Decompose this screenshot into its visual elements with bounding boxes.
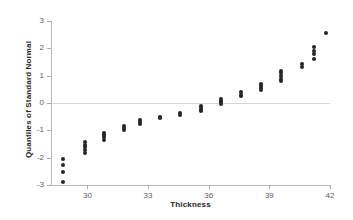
- zero-reference-line: [51, 103, 330, 104]
- x-axis-title: Thickness: [51, 200, 330, 209]
- y-axis-line: [51, 21, 52, 185]
- data-point: [312, 57, 316, 61]
- data-point: [61, 157, 65, 161]
- data-point: [61, 180, 65, 184]
- x-tick: 36: [209, 185, 210, 189]
- y-tick-mark: [47, 158, 51, 159]
- y-tick-label: -3: [37, 179, 44, 190]
- data-point: [219, 97, 223, 101]
- chart-title-clipped: [60, 0, 300, 2]
- y-tick-label: -2: [37, 152, 44, 163]
- x-axis-line: [51, 185, 330, 186]
- x-tick: 30: [87, 185, 88, 189]
- y-tick-label: 0: [40, 97, 44, 108]
- data-point: [61, 170, 65, 174]
- x-tick-mark: [330, 185, 331, 189]
- y-tick-label: 2: [40, 42, 44, 53]
- qq-plot-chart: 3210-1-2-3 3033363942 Quantiles of Stand…: [0, 0, 353, 220]
- y-tick: -3: [0, 185, 51, 186]
- x-tick-label: 30: [75, 191, 99, 200]
- x-tick-mark: [148, 185, 149, 189]
- data-point: [312, 49, 316, 53]
- y-axis-title: Quantiles of Standard Normal: [24, 15, 33, 185]
- x-tick-label: 39: [257, 191, 281, 200]
- data-point: [300, 65, 304, 69]
- y-tick-label: 1: [40, 70, 44, 81]
- y-tick-label: -1: [37, 124, 44, 135]
- y-tick-label: 3: [40, 15, 44, 26]
- y-tick-mark: [47, 48, 51, 49]
- y-tick-mark: [47, 76, 51, 77]
- data-point: [259, 82, 263, 86]
- data-point: [122, 124, 126, 128]
- x-tick-mark: [209, 185, 210, 189]
- x-tick: 33: [148, 185, 149, 189]
- data-point: [61, 163, 65, 167]
- y-tick-mark: [47, 185, 51, 186]
- y-tick-mark: [47, 21, 51, 22]
- data-point: [312, 52, 316, 56]
- x-tick-label: 33: [136, 191, 160, 200]
- data-point: [312, 45, 316, 49]
- x-tick-label: 42: [318, 191, 342, 200]
- data-point: [102, 131, 106, 135]
- x-tick-mark: [269, 185, 270, 189]
- x-tick-label: 36: [197, 191, 221, 200]
- y-tick-mark: [47, 130, 51, 131]
- data-point: [324, 31, 328, 35]
- x-tick: 42: [330, 185, 331, 189]
- x-tick-mark: [87, 185, 88, 189]
- data-point: [300, 62, 304, 66]
- data-point: [199, 104, 203, 108]
- x-tick: 39: [269, 185, 270, 189]
- y-tick-mark: [47, 103, 51, 104]
- data-point: [158, 115, 162, 119]
